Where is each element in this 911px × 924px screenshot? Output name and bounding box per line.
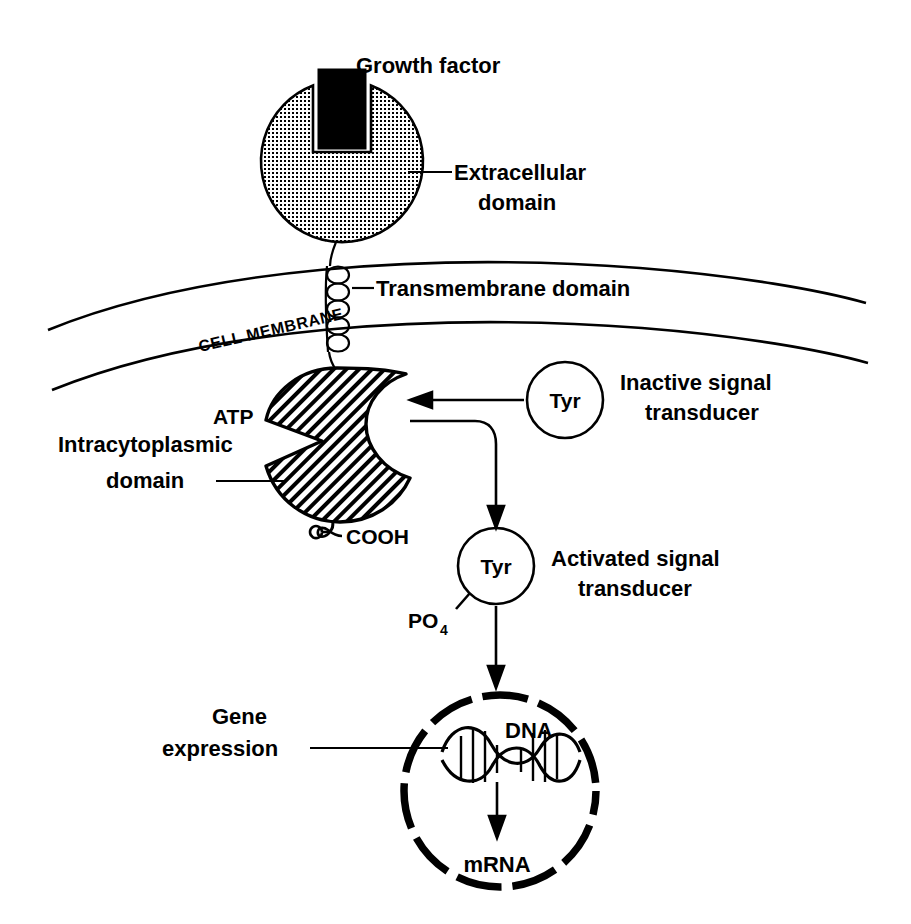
inactive-transducer-group: Tyr Inactive signal transducer bbox=[410, 362, 772, 438]
extracellular-domain-label-line2: domain bbox=[478, 190, 556, 215]
activated-transducer-label-line2: transducer bbox=[578, 576, 692, 601]
phosphate-label: PO bbox=[408, 609, 438, 632]
activated-transducer-label-line1: Activated signal bbox=[551, 546, 720, 571]
cooh-label: COOH bbox=[346, 525, 409, 548]
transmembrane-upper-stem bbox=[330, 242, 336, 266]
growth-factor-label: Growth factor bbox=[356, 53, 501, 78]
gene-expression-label-line1: Gene bbox=[212, 704, 267, 729]
phosphorylation-arrowhead bbox=[488, 506, 504, 528]
intracytoplasmic-domain-group: ATP Intracytoplasmic domain COOH bbox=[58, 368, 410, 548]
phosphate-subscript-label: 4 bbox=[440, 622, 448, 638]
nucleus-entry-arrowhead bbox=[488, 666, 504, 688]
transcription-arrow-group bbox=[489, 782, 505, 838]
inactive-transducer-label-line1: Inactive signal bbox=[620, 370, 772, 395]
inactive-transducer-tyr-label: Tyr bbox=[549, 389, 580, 412]
curved-down-arrow-icon bbox=[410, 421, 496, 512]
phosphate-connector-line bbox=[456, 593, 470, 609]
intracytoplasmic-domain-label-line2: domain bbox=[106, 468, 184, 493]
extracellular-domain-group: Extracellular domain bbox=[261, 81, 587, 243]
left-arrow-icon bbox=[410, 392, 524, 408]
activated-transducer-tyr-label: Tyr bbox=[480, 555, 511, 578]
growth-factor-block bbox=[318, 69, 366, 149]
dna-label: DNA bbox=[505, 718, 553, 743]
transmembrane-domain-label: Transmembrane domain bbox=[376, 276, 630, 301]
gene-expression-label-line2: expression bbox=[162, 736, 278, 761]
extracellular-domain-label-line1: Extracellular bbox=[454, 160, 587, 185]
nucleus-group: Gene expression DNA bbox=[162, 695, 596, 887]
mrna-label: mRNA bbox=[463, 852, 530, 877]
kinase-domain-shape bbox=[266, 368, 410, 522]
nucleus-entry-arrow-group bbox=[488, 606, 504, 688]
transcription-arrowhead bbox=[489, 816, 505, 838]
intracytoplasmic-domain-label-line1: Intracytoplasmic bbox=[58, 432, 233, 457]
activated-transducer-group: Tyr Activated signal transducer PO 4 bbox=[408, 528, 720, 638]
inactive-transducer-label-line2: transducer bbox=[645, 400, 759, 425]
atp-label: ATP bbox=[213, 405, 253, 428]
phosphorylation-arrow-group bbox=[410, 421, 504, 528]
signal-transduction-diagram: CELL MEMBRANE Growth factor Extracellula… bbox=[0, 0, 911, 924]
diagram-canvas: CELL MEMBRANE Growth factor Extracellula… bbox=[0, 0, 911, 924]
